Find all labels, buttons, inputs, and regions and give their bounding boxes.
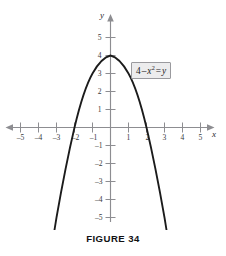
x-tick-label-3: 3 (163, 133, 167, 142)
figure-container: –5 –4 –3 –2 –1 1 2 3 4 5 5 4 3 2 1 –1 –2… (0, 0, 226, 256)
y-tick-label-4: 4 (98, 51, 102, 60)
y-tick-label--1: –1 (94, 141, 103, 150)
x-tick-label--5: –5 (16, 133, 25, 142)
y-tick-label--4: –4 (94, 195, 103, 204)
y-tick-label-1: 1 (98, 105, 102, 114)
x-axis-left-arrow-icon (6, 124, 14, 131)
y-axis-up-arrow-icon (107, 14, 114, 22)
y-axis-label: y (99, 10, 104, 20)
coordinate-plane-plot: –5 –4 –3 –2 –1 1 2 3 4 5 5 4 3 2 1 –1 –2… (0, 0, 226, 230)
x-axis-label: x (211, 129, 216, 139)
y-tick-label--2: –2 (94, 159, 103, 168)
equation-text: 4 – x2 = y (136, 66, 166, 76)
figure-caption: FIGURE 34 (0, 233, 226, 244)
x-tick-label-1: 1 (127, 133, 131, 142)
equation-equals-sign: = (155, 66, 162, 76)
x-axis-tick-labels: –5 –4 –3 –2 –1 1 2 3 4 5 (16, 133, 203, 142)
y-tick-label-5: 5 (98, 33, 102, 42)
y-tick-label-2: 2 (98, 87, 102, 96)
x-tick-label-5: 5 (199, 133, 203, 142)
y-axis-group (107, 14, 114, 222)
x-tick-label--1: –1 (89, 133, 98, 142)
equation-variable-y: y (162, 66, 166, 76)
y-tick-label-3: 3 (98, 69, 102, 78)
x-tick-label--3: –3 (52, 133, 61, 142)
y-tick-label--5: –5 (94, 213, 103, 222)
x-tick-label-4: 4 (181, 133, 185, 142)
equation-label-box: 4 – x2 = y (131, 62, 171, 79)
x-tick-label--4: –4 (34, 133, 43, 142)
y-tick-label--3: –3 (94, 177, 103, 186)
